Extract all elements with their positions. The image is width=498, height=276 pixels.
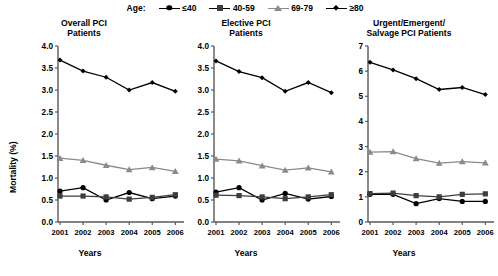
data-point bbox=[150, 195, 155, 200]
data-point bbox=[236, 185, 241, 190]
x-tick-label: 2005 bbox=[454, 228, 472, 237]
chart-panels: Overall PCI Patients Mortality (%) 0.00.… bbox=[0, 18, 490, 260]
y-tick-label: 7 bbox=[358, 42, 363, 51]
chart-svg: 0.00.51.01.52.02.53.03.54.02001200220032… bbox=[192, 42, 344, 244]
data-point bbox=[283, 191, 288, 196]
data-point bbox=[213, 193, 218, 198]
data-point bbox=[80, 185, 85, 190]
legend-item-age-40-59: 40-59 bbox=[209, 3, 254, 13]
x-tick-label: 2002 bbox=[75, 228, 92, 237]
legend-label: 40-59 bbox=[233, 3, 255, 13]
y-tick-label: 1.0 bbox=[42, 174, 54, 183]
panel-title: Elective PCI Patients bbox=[162, 18, 330, 38]
data-point bbox=[391, 67, 396, 72]
chart-panel-elective-pci: Elective PCI Patients 0.00.51.01.52.02.5… bbox=[162, 18, 330, 260]
series-line bbox=[60, 158, 175, 171]
y-tick-label: 2.0 bbox=[198, 130, 210, 139]
data-point bbox=[127, 88, 132, 93]
y-tick-label: 4 bbox=[358, 117, 363, 126]
x-axis-title: Years bbox=[176, 248, 316, 258]
data-point bbox=[260, 194, 265, 199]
panel-title: Urgent/Emergent/ Salvage PCI Patients bbox=[328, 18, 490, 38]
legend-title: Age: bbox=[126, 3, 145, 13]
y-tick-label: 0.0 bbox=[198, 218, 210, 227]
data-point bbox=[483, 191, 488, 196]
y-tick-label: 0.5 bbox=[198, 196, 210, 205]
data-point bbox=[460, 85, 465, 90]
y-tick-label: 0.5 bbox=[42, 196, 54, 205]
data-point bbox=[437, 87, 442, 92]
x-tick-label: 2001 bbox=[208, 228, 226, 237]
data-point bbox=[306, 194, 311, 199]
x-tick-label: 2004 bbox=[121, 228, 139, 237]
y-tick-label: 0.0 bbox=[42, 218, 54, 227]
x-tick-label: 2001 bbox=[362, 228, 380, 237]
data-point bbox=[414, 201, 419, 206]
y-tick-label: 1.5 bbox=[42, 152, 54, 161]
data-point bbox=[283, 196, 288, 201]
series-line bbox=[370, 152, 485, 164]
y-tick-label: 4.0 bbox=[42, 42, 54, 51]
series-line bbox=[216, 61, 331, 93]
y-tick-label: 3 bbox=[358, 143, 363, 152]
y-tick-label: 1.5 bbox=[198, 152, 210, 161]
diamond-marker-icon bbox=[326, 4, 347, 13]
y-tick-label: 2.0 bbox=[42, 130, 54, 139]
x-tick-label: 2005 bbox=[300, 228, 318, 237]
data-point bbox=[460, 199, 465, 204]
y-tick-label: 1.0 bbox=[198, 174, 210, 183]
data-point bbox=[104, 75, 109, 80]
series-line bbox=[60, 60, 175, 91]
y-tick-label: 2 bbox=[358, 168, 363, 177]
legend-label: ≤40 bbox=[182, 3, 196, 13]
series-line bbox=[370, 62, 485, 94]
y-tick-label: 4.0 bbox=[198, 42, 210, 51]
chart-panel-overall-pci: Overall PCI Patients Mortality (%) 0.00.… bbox=[0, 18, 168, 260]
y-tick-label: 2.5 bbox=[42, 108, 54, 117]
x-axis-title: Years bbox=[20, 248, 160, 258]
legend-label: ≥80 bbox=[349, 3, 363, 13]
chart-panel-urgent-emergent-salvage-pci: Urgent/Emergent/ Salvage PCI Patients 01… bbox=[328, 18, 490, 260]
data-point bbox=[367, 191, 372, 196]
y-tick-label: 2.5 bbox=[198, 108, 210, 117]
square-marker-icon bbox=[209, 4, 230, 13]
data-point bbox=[414, 193, 419, 198]
legend-item-age-69-79: 69-79 bbox=[268, 3, 313, 13]
y-axis-title: Mortality (%) bbox=[8, 141, 18, 193]
series-line bbox=[216, 159, 331, 172]
data-point bbox=[483, 92, 488, 97]
y-tick-label: 0 bbox=[358, 218, 363, 227]
plot-area: 01234567200120022003200420052006 bbox=[346, 42, 498, 244]
data-point bbox=[306, 80, 311, 85]
data-point bbox=[127, 190, 132, 195]
x-tick-label: 2001 bbox=[52, 228, 70, 237]
x-tick-label: 2003 bbox=[254, 228, 271, 237]
legend-label: 69-79 bbox=[291, 3, 313, 13]
y-tick-label: 6 bbox=[358, 67, 363, 76]
x-tick-label: 2002 bbox=[385, 228, 402, 237]
data-point bbox=[437, 194, 442, 199]
x-tick-label: 2004 bbox=[277, 228, 295, 237]
data-point bbox=[460, 192, 465, 197]
data-point bbox=[236, 193, 241, 198]
circle-marker-icon bbox=[159, 4, 180, 13]
y-tick-label: 5 bbox=[358, 92, 363, 101]
data-point bbox=[483, 199, 488, 204]
x-tick-label: 2005 bbox=[144, 228, 162, 237]
chart-svg: 01234567200120022003200420052006 bbox=[346, 42, 498, 244]
y-tick-label: 3.0 bbox=[198, 86, 210, 95]
data-point bbox=[127, 197, 132, 202]
x-tick-label: 2004 bbox=[431, 228, 449, 237]
y-tick-label: 3.5 bbox=[42, 64, 54, 73]
data-point bbox=[80, 193, 85, 198]
legend-item-age-40-or-less: ≤40 bbox=[159, 3, 197, 13]
legend-item-age-80-or-more: ≥80 bbox=[326, 3, 364, 13]
chart-legend: Age: ≤40 40-59 69-79 ≥80 bbox=[0, 3, 490, 13]
y-tick-label: 1 bbox=[358, 193, 363, 202]
x-axis-title: Years bbox=[334, 248, 474, 258]
x-tick-label: 2003 bbox=[408, 228, 425, 237]
data-point bbox=[237, 69, 242, 74]
x-tick-label: 2002 bbox=[231, 228, 248, 237]
data-point bbox=[390, 190, 395, 195]
